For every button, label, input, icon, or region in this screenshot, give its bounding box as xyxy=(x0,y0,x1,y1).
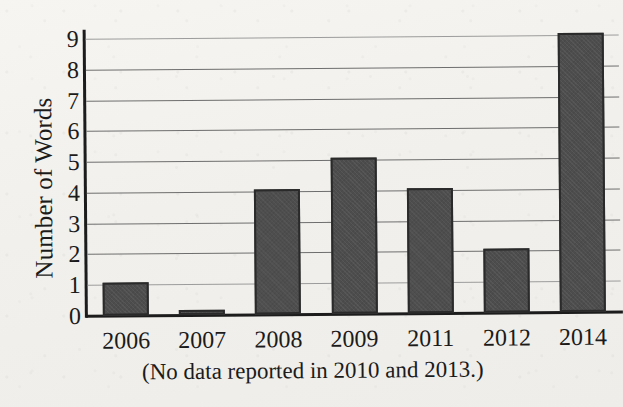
y-tick-label-0: 0 xyxy=(51,304,81,328)
x-tick-label-2014: 2014 xyxy=(545,322,621,353)
x-tick-label-2006: 2006 xyxy=(88,325,164,356)
x-tick-label-2007: 2007 xyxy=(164,325,240,356)
gridline-8 xyxy=(86,65,619,70)
gridline-6 xyxy=(86,127,619,132)
y-tick-label-2: 2 xyxy=(50,242,80,266)
y-axis-tick-labels: 0123456789 xyxy=(43,39,81,316)
bar-2014 xyxy=(558,33,606,312)
x-tick-label-2009: 2009 xyxy=(316,323,392,354)
bar-2007 xyxy=(179,310,225,315)
bar-2011 xyxy=(407,188,454,313)
gridlines xyxy=(86,35,619,39)
bar-2008 xyxy=(254,189,301,314)
x-tick-label-2008: 2008 xyxy=(240,324,316,355)
y-tick-label-5: 5 xyxy=(50,150,80,174)
y-tick-label-4: 4 xyxy=(50,181,80,205)
y-tick-label-7: 7 xyxy=(49,88,79,112)
bar-2006 xyxy=(103,283,149,316)
bar-2012 xyxy=(483,249,529,313)
plot-area xyxy=(86,35,621,316)
bar-chart-figure: Number of Words 0123456789 2006200720082… xyxy=(0,0,623,407)
x-tick-label-2011: 2011 xyxy=(393,323,469,354)
bar-2009 xyxy=(330,158,377,314)
y-tick-label-3: 3 xyxy=(50,211,80,235)
gridline-9 xyxy=(86,35,619,40)
y-tick-label-1: 1 xyxy=(51,273,81,297)
x-tick-label-2012: 2012 xyxy=(469,322,545,353)
y-tick-label-9: 9 xyxy=(49,27,79,51)
y-tick-label-8: 8 xyxy=(49,58,79,82)
y-tick-label-6: 6 xyxy=(49,119,79,143)
gridline-7 xyxy=(86,96,619,101)
chart-caption: (No data reported in 2010 and 2013.) xyxy=(1,356,623,387)
x-axis-tick-labels: 2006200720082009201120122014 xyxy=(88,322,621,360)
